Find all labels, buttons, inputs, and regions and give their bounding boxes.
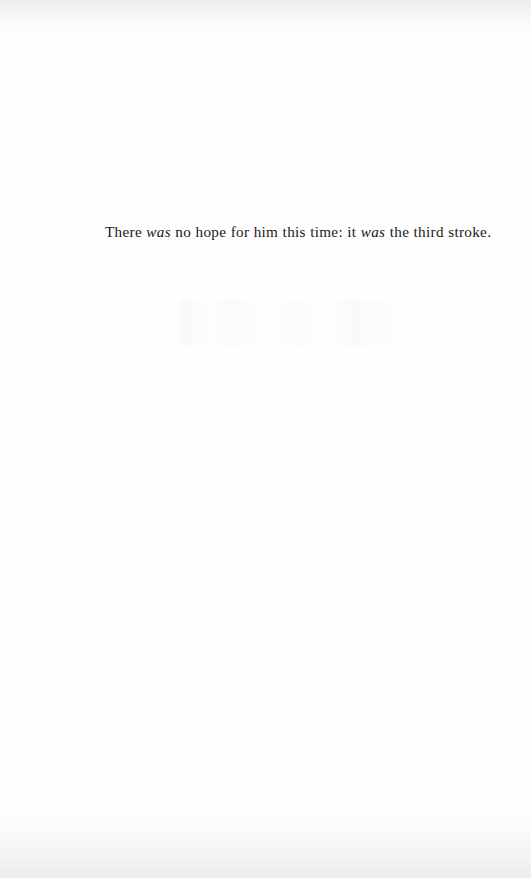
text-run-4-italic: was [361,223,386,240]
verso-show-through-ghosting [180,300,410,346]
paper-grain-texture [0,0,531,878]
text-run-5: the third stroke. [385,223,491,240]
body-text-line: There was no hope for him this time: it … [105,222,435,242]
scanner-edge-shading-top [0,0,531,34]
text-run-1: There [105,223,146,240]
body-text-block: There was no hope for him this time: it … [105,222,435,242]
scanner-edge-shading-bottom [0,808,531,878]
scanned-page: There was no hope for him this time: it … [0,0,531,878]
text-run-3: no hope for him this time: it [171,223,361,240]
text-run-2-italic: was [146,223,171,240]
